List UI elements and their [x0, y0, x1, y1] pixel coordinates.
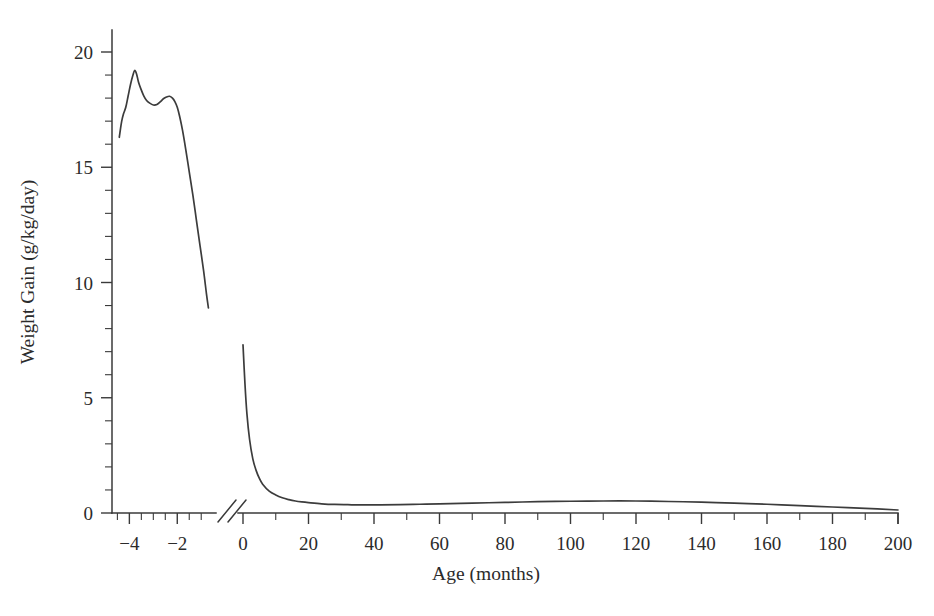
x-tick-label: 180 — [818, 533, 847, 554]
break-slash-1 — [218, 500, 236, 522]
y-tick-label: 5 — [84, 388, 94, 409]
x-tick-labels-group: −4−2020406080100120140160180200 — [119, 533, 912, 554]
x-tick-label: 120 — [622, 533, 651, 554]
y-tick-label: 20 — [74, 42, 93, 63]
x-tick-label: −2 — [167, 533, 187, 554]
y-tick-labels-group: 05101520 — [74, 42, 93, 524]
y-tick-label: 15 — [74, 157, 93, 178]
axis-break-marker — [218, 500, 246, 522]
x-tick-label: 40 — [365, 533, 384, 554]
ticks-group — [101, 52, 898, 524]
x-tick-label: 80 — [496, 533, 515, 554]
y-axis-title: Weight Gain (g/kg/day) — [17, 180, 39, 365]
x-tick-label: 100 — [556, 533, 585, 554]
y-tick-label: 0 — [84, 503, 94, 524]
y-tick-label: 10 — [74, 273, 93, 294]
x-tick-label: 60 — [430, 533, 449, 554]
x-tick-label: 160 — [753, 533, 782, 554]
weight-gain-line-chart: −4−2020406080100120140160180200 05101520… — [0, 0, 934, 616]
x-tick-label: 20 — [299, 533, 318, 554]
x-tick-label: 0 — [238, 533, 248, 554]
curve-prenatal — [119, 70, 208, 307]
x-tick-label: −4 — [119, 533, 140, 554]
x-axis-title: Age (months) — [432, 563, 540, 585]
data-curves-group — [119, 70, 898, 510]
x-tick-label: 140 — [687, 533, 716, 554]
curve-postnatal — [243, 345, 898, 510]
chart-figure: −4−2020406080100120140160180200 05101520… — [0, 0, 934, 616]
x-tick-label: 200 — [884, 533, 913, 554]
axes-group — [112, 30, 898, 524]
